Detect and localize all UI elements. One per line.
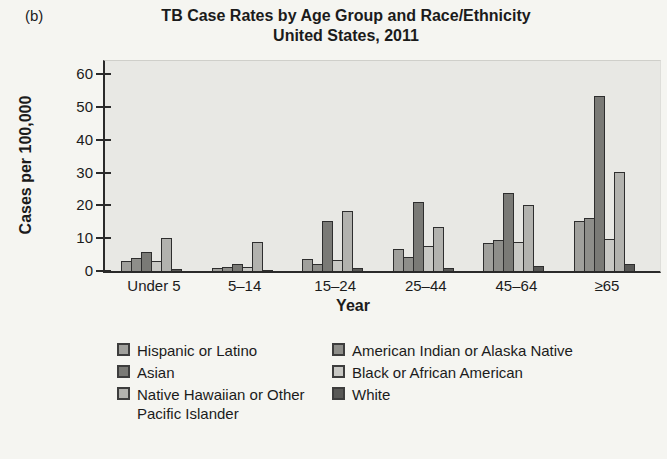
bar-group: 45–64 (483, 193, 549, 271)
x-tick-label: 15–24 (314, 277, 356, 294)
legend-label: White (352, 385, 390, 404)
bar-group: 15–24 (302, 211, 368, 271)
legend-swatch (117, 343, 130, 356)
y-tick-mark (96, 204, 111, 206)
legend-entry: Asian (117, 363, 332, 382)
bar (533, 266, 544, 271)
y-tick-label: 30 (51, 164, 93, 182)
plot-area: Under 55–1415–2425–4445–64≥65 0102030405… (103, 60, 661, 273)
legend-entry: Native Hawaiian or Other Pacific Islande… (117, 385, 332, 423)
x-tick-label: 5–14 (228, 277, 261, 294)
bar (433, 227, 444, 271)
bar-groups: Under 55–1415–2425–4445–64≥65 (105, 61, 660, 271)
legend-swatch (117, 365, 130, 378)
legend-entry: American Indian or Alaska Native (332, 341, 573, 360)
y-axis-title: Cases per 100,000 (17, 96, 35, 235)
legend: Hispanic or LatinoAsianNative Hawaiian o… (117, 341, 573, 426)
bar (342, 211, 353, 271)
y-tick-label: 50 (51, 98, 93, 116)
legend-label: Hispanic or Latino (137, 341, 257, 360)
y-tick-mark (96, 106, 111, 108)
y-tick-label: 10 (51, 229, 93, 247)
y-tick-mark (96, 172, 111, 174)
legend-swatch (332, 365, 345, 378)
legend-entry: White (332, 385, 573, 404)
x-tick-label: ≥65 (595, 277, 620, 294)
bar (352, 268, 363, 271)
legend-label: American Indian or Alaska Native (352, 341, 573, 360)
legend-column: American Indian or Alaska NativeBlack or… (332, 341, 573, 426)
legend-swatch (117, 387, 130, 400)
x-axis-title: Year (103, 297, 603, 315)
bar-group: Under 5 (121, 238, 187, 271)
x-tick-label: Under 5 (127, 277, 180, 294)
legend-label: Black or African American (352, 363, 523, 382)
bar-group: ≥65 (574, 96, 640, 271)
y-tick-mark (96, 73, 111, 75)
legend-label: Asian (137, 363, 175, 382)
bar (443, 268, 454, 271)
bar (171, 269, 182, 271)
bar-group: 5–14 (212, 242, 278, 271)
bar-group: 25–44 (393, 202, 459, 271)
legend-entry: Hispanic or Latino (117, 341, 332, 360)
chart-title-line1: TB Case Rates by Age Group and Race/Ethn… (40, 6, 652, 26)
y-tick-mark (96, 139, 111, 141)
chart-title-line2: United States, 2011 (40, 26, 652, 46)
x-tick-label: 25–44 (405, 277, 447, 294)
bar (161, 238, 172, 271)
y-tick-mark (96, 270, 111, 272)
y-tick-label: 40 (51, 131, 93, 149)
bar (262, 270, 273, 271)
figure: (b) TB Case Rates by Age Group and Race/… (0, 0, 667, 459)
x-tick-label: 45–64 (496, 277, 538, 294)
legend-column: Hispanic or LatinoAsianNative Hawaiian o… (117, 341, 332, 426)
legend-label: Native Hawaiian or Other Pacific Islande… (137, 385, 305, 423)
y-axis-title-wrap: Cases per 100,000 (12, 60, 40, 270)
bar (614, 172, 625, 271)
bar (252, 242, 263, 271)
legend-swatch (332, 343, 345, 356)
legend-entry: Black or African American (332, 363, 573, 382)
chart-title: TB Case Rates by Age Group and Race/Ethn… (40, 6, 652, 46)
y-tick-label: 0 (51, 262, 93, 280)
bar (523, 205, 534, 271)
y-tick-mark (96, 237, 111, 239)
legend-swatch (332, 387, 345, 400)
y-tick-label: 60 (51, 65, 93, 83)
bar (624, 264, 635, 271)
y-tick-label: 20 (51, 196, 93, 214)
